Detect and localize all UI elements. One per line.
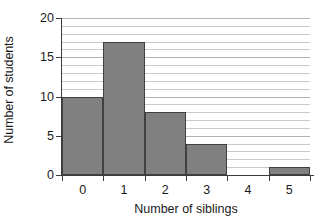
y-tick-label: 15 [40, 50, 54, 64]
x-tick-mark [227, 176, 228, 181]
bar [145, 112, 186, 175]
x-tick-label: 1 [121, 183, 128, 197]
y-tick-label: 0 [47, 168, 54, 182]
y-axis-title-text: Number of students [2, 36, 16, 143]
y-axis-tick-labels: 05101520 [18, 0, 58, 224]
bar [186, 144, 227, 175]
x-tick-label: 0 [79, 183, 86, 197]
bar [103, 42, 144, 175]
x-tick-mark [186, 176, 187, 181]
y-tick-label: 5 [47, 129, 54, 143]
x-tick-mark [269, 176, 270, 181]
bar [62, 97, 103, 176]
x-tick-label: 2 [162, 183, 169, 197]
x-axis-line [56, 175, 314, 176]
bar-series [62, 18, 310, 175]
y-tick-label: 10 [40, 90, 54, 104]
plot-area [62, 18, 310, 175]
bar [269, 167, 310, 175]
y-tick-label: 20 [40, 11, 54, 25]
x-tick-label: 3 [203, 183, 210, 197]
x-tick-mark [62, 176, 63, 181]
x-tick-mark [103, 176, 104, 181]
y-tick-mark [56, 18, 62, 19]
x-axis-title: Number of siblings [62, 202, 310, 216]
x-tick-mark [145, 176, 146, 181]
y-tick-mark [56, 57, 62, 58]
y-tick-mark [56, 97, 62, 98]
y-tick-mark [56, 136, 62, 137]
histogram-chart: Number of students 05101520 012345 Numbe… [0, 0, 326, 224]
x-tick-label: 4 [245, 183, 252, 197]
x-tick-mark [310, 176, 311, 181]
x-tick-label: 5 [286, 183, 293, 197]
y-axis-title: Number of students [0, 0, 18, 180]
